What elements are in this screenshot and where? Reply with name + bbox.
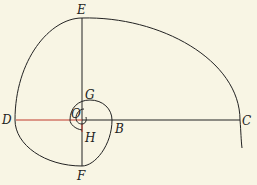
label-d: D (1, 113, 12, 127)
diagram-canvas: E G O D B C H F (0, 0, 257, 185)
label-e: E (76, 3, 86, 17)
spiral-outer-turn (15, 18, 242, 166)
spiral-connector (70, 120, 82, 130)
label-g: G (85, 88, 95, 102)
label-h: H (84, 131, 96, 145)
label-b: B (114, 122, 124, 136)
label-c: C (242, 114, 251, 128)
label-f: F (76, 169, 86, 183)
label-o: O (71, 107, 81, 121)
spiral-diagram: E G O D B C H F (0, 0, 257, 185)
